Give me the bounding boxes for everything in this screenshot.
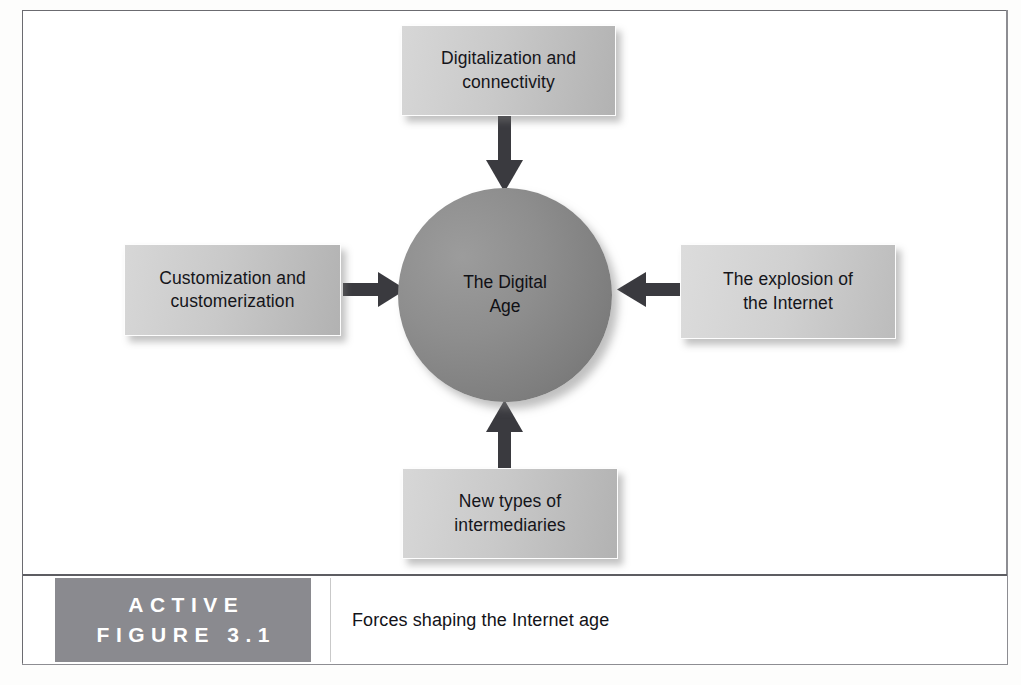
node-customization-and-customerization: Customization and customerization <box>124 244 341 336</box>
node-right-label-line1: The explosion of <box>723 268 853 291</box>
hub-label-line1: The Digital <box>463 271 547 295</box>
node-right-label-line2: the Internet <box>723 292 853 315</box>
node-the-explosion-of-the-internet: The explosion of the Internet <box>680 244 896 339</box>
arrow-right-icon <box>343 272 406 307</box>
node-bottom-label-line2: intermediaries <box>454 514 565 537</box>
active-figure-label-line2: FIGURE 3.1 <box>90 620 276 650</box>
caption-vertical-divider <box>330 578 331 662</box>
figure-caption: Forces shaping the Internet age <box>352 578 972 662</box>
arrow-down-icon <box>486 116 523 192</box>
diagram-canvas: The Digital Age Digitalization and conne… <box>0 0 1021 575</box>
node-left-label-line2: customerization <box>159 290 306 313</box>
node-top-label-line1: Digitalization and <box>441 47 576 70</box>
arrow-left-icon <box>617 272 680 307</box>
node-new-types-of-intermediaries: New types of intermediaries <box>402 468 618 559</box>
node-left-label-line1: Customization and <box>159 267 306 290</box>
arrow-up-icon <box>486 400 523 470</box>
hub-node-the-digital-age: The Digital Age <box>398 188 612 402</box>
node-bottom-label-line1: New types of <box>454 490 565 513</box>
active-figure-badge: ACTIVE FIGURE 3.1 <box>55 578 311 662</box>
hub-label-line2: Age <box>463 295 547 319</box>
active-figure-label-line1: ACTIVE <box>122 590 245 620</box>
figure-page: The Digital Age Digitalization and conne… <box>0 0 1021 685</box>
node-top-label-line2: connectivity <box>441 71 576 94</box>
node-digitalization-and-connectivity: Digitalization and connectivity <box>401 25 616 116</box>
